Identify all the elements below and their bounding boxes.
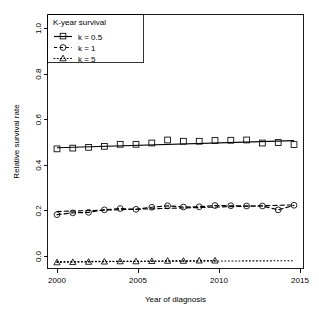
data-point	[133, 141, 139, 147]
observed-line	[57, 205, 294, 214]
legend-label-k-1: k = 1	[78, 44, 96, 53]
legend: K-year survival k = 0.5 k = 1	[48, 15, 144, 64]
data-point	[54, 146, 60, 152]
trend-line	[57, 141, 294, 148]
circle-marker-dashed-line-icon	[54, 45, 72, 51]
data-point	[291, 142, 297, 148]
y-tick-label-0.6: 0.6	[34, 114, 43, 126]
x-tick-label-2000: 2000	[48, 276, 66, 285]
x-axis: 2000 2005 2010 2015 Year of diagnosis	[48, 269, 309, 305]
y-axis: 1.0 0.8 0.6 0.4 0.2 0.0 Relative surviva…	[12, 22, 47, 262]
x-axis-title: Year of diagnosis	[145, 295, 206, 304]
legend-entry-k-0.5[interactable]: k = 0.5	[54, 33, 103, 42]
x-tick-label-2010: 2010	[210, 276, 228, 285]
y-tick-label-0.2: 0.2	[34, 205, 43, 217]
data-point	[165, 137, 171, 143]
y-tick-label-0.0: 0.0	[34, 250, 43, 262]
observed-line	[57, 261, 215, 263]
series-k-1	[54, 202, 297, 217]
chart-canvas: 1.0 0.8 0.6 0.4 0.2 0.0 Relative surviva…	[0, 0, 319, 312]
series-k-0.5	[54, 137, 297, 152]
legend-entry-k-1[interactable]: k = 1	[54, 44, 96, 53]
triangle-marker-dotted-line-icon	[54, 55, 72, 61]
legend-label-k-5: k = 5	[78, 55, 96, 64]
y-tick-label-0.4: 0.4	[34, 159, 43, 171]
series-k-5	[54, 257, 294, 264]
square-marker-solid-line-icon	[54, 33, 72, 39]
y-tick-label-1.0: 1.0	[34, 22, 43, 34]
x-tick-label-2015: 2015	[291, 276, 309, 285]
data-point	[70, 145, 76, 151]
legend-label-k-0.5: k = 0.5	[78, 33, 103, 42]
y-tick-label-0.8: 0.8	[34, 68, 43, 80]
y-axis-title: Relative survival rate	[12, 104, 21, 179]
data-point	[181, 138, 187, 144]
relative-survival-plot: 1.0 0.8 0.6 0.4 0.2 0.0 Relative surviva…	[0, 0, 319, 312]
series-layer	[54, 137, 297, 265]
legend-title: K-year survival	[53, 18, 106, 27]
x-tick-label-2005: 2005	[129, 276, 147, 285]
